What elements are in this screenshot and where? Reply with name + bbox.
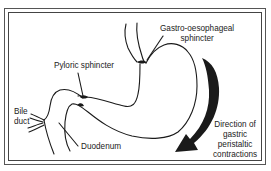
oesophagus-right-wall	[137, 23, 146, 63]
gastro-oesophageal-sphincter-mark	[137, 61, 146, 64]
label-bile-line2: duct	[14, 117, 29, 127]
label-direction-line1: Direction of	[213, 120, 257, 130]
label-direction-line4: contractions	[213, 150, 257, 160]
pyloric-pointer	[78, 73, 83, 96]
bile-duct-line-4	[29, 125, 44, 132]
label-gastro-line1: Gastro-oesophageal	[160, 24, 234, 34]
oesophagus-left-wall	[125, 24, 137, 62]
label-duodenum: Duodenum	[81, 142, 121, 152]
duodenum-descending-wall	[44, 120, 54, 154]
label-gastro-line2: sphincter	[160, 34, 234, 44]
label-direction-line2: gastric	[213, 130, 257, 140]
label-direction-line3: peristaltic	[213, 140, 257, 150]
duodenum-pointer	[59, 123, 78, 146]
label-bile-line1: Bile	[14, 107, 29, 117]
pyloric-lower-mark	[77, 103, 84, 106]
label-peristalsis-direction: Direction of gastric peristaltic contrac…	[213, 120, 257, 160]
label-pyloric-sphincter: Pyloric sphincter	[54, 61, 114, 71]
label-gastro-oesophageal: Gastro-oesophageal sphincter	[160, 24, 234, 44]
label-bile-duct: Bile duct	[14, 107, 29, 127]
